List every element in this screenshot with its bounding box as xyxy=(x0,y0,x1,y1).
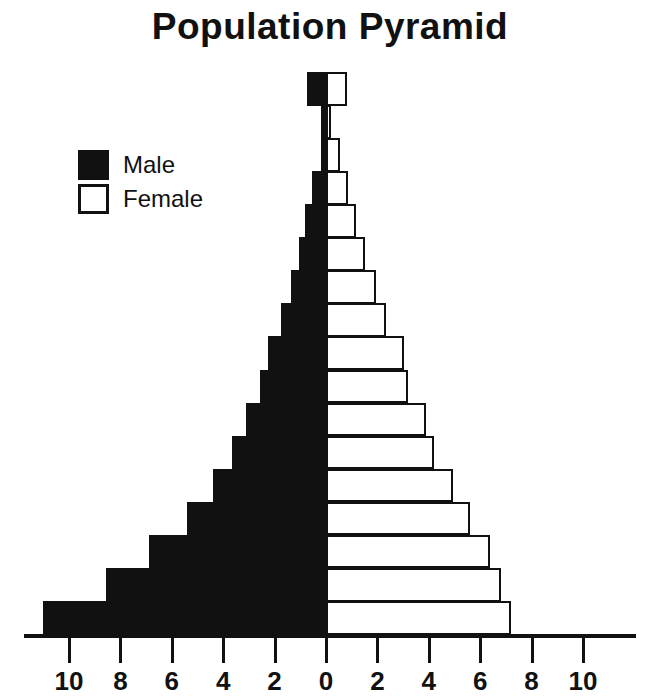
x-axis-tick xyxy=(222,638,225,663)
bar-female xyxy=(326,237,365,271)
pyramid-row xyxy=(0,270,660,303)
x-axis-tick xyxy=(531,638,534,663)
pyramid-row xyxy=(0,370,660,403)
x-axis-tick-label: 10 xyxy=(49,666,89,697)
bar-male xyxy=(43,601,326,635)
x-axis-tick xyxy=(68,638,71,663)
x-axis-tick-label: 8 xyxy=(512,666,552,697)
x-axis-tick-label: 6 xyxy=(152,666,192,697)
bar-male xyxy=(281,303,326,337)
bar-male xyxy=(291,270,326,304)
bar-female xyxy=(326,370,408,404)
pyramid-row xyxy=(0,568,660,601)
x-axis-tick xyxy=(119,638,122,663)
pyramid-row xyxy=(0,436,660,469)
x-axis-tick xyxy=(171,638,174,663)
x-axis-tick-label: 4 xyxy=(203,666,243,697)
pyramid-row xyxy=(0,601,660,634)
population-pyramid-chart: Population Pyramid Male Female 108642024… xyxy=(0,0,660,699)
bar-female xyxy=(326,270,376,304)
pyramid-row xyxy=(0,204,660,237)
bar-female xyxy=(326,469,453,503)
bar-female xyxy=(326,72,347,106)
bar-female xyxy=(326,204,356,238)
x-axis-tick xyxy=(428,638,431,663)
x-axis-tick xyxy=(376,638,379,663)
x-axis-tick-label: 0 xyxy=(306,666,346,697)
pyramid-row xyxy=(0,535,660,568)
x-axis-tick-label: 8 xyxy=(100,666,140,697)
pyramid-row xyxy=(0,336,660,369)
bar-male xyxy=(260,370,326,404)
x-axis-tick-label: 2 xyxy=(255,666,295,697)
bar-male xyxy=(149,535,326,569)
pyramid-row xyxy=(0,138,660,171)
bar-male xyxy=(187,502,326,536)
bar-male xyxy=(268,336,326,370)
bar-female xyxy=(326,171,348,205)
bar-female xyxy=(326,403,426,437)
bar-male xyxy=(312,171,326,205)
x-axis-tick xyxy=(274,638,277,663)
bar-male xyxy=(305,204,326,238)
bar-female xyxy=(326,502,470,536)
pyramid-row xyxy=(0,171,660,204)
bar-female xyxy=(326,336,404,370)
bar-male xyxy=(213,469,326,503)
pyramid-row xyxy=(0,469,660,502)
x-axis-tick xyxy=(582,638,585,663)
bar-female xyxy=(326,436,434,470)
x-axis-line xyxy=(24,634,636,638)
page-title: Population Pyramid xyxy=(0,6,660,48)
x-axis-tick-label: 10 xyxy=(563,666,603,697)
bar-female xyxy=(326,535,490,569)
bar-male xyxy=(106,568,326,602)
x-axis-tick-label: 2 xyxy=(357,666,397,697)
bar-female xyxy=(326,303,386,337)
bar-male xyxy=(299,237,326,271)
x-axis-tick-label: 4 xyxy=(409,666,449,697)
x-axis-tick xyxy=(325,638,328,663)
x-axis-tick-label: 6 xyxy=(460,666,500,697)
pyramid-row xyxy=(0,72,660,105)
pyramid-row xyxy=(0,403,660,436)
bar-male xyxy=(232,436,326,470)
bar-male xyxy=(246,403,326,437)
pyramid-row xyxy=(0,502,660,535)
bar-female xyxy=(326,601,511,635)
x-axis-tick xyxy=(479,638,482,663)
bar-female xyxy=(326,105,331,139)
bar-male xyxy=(307,72,326,106)
bar-female xyxy=(326,568,501,602)
pyramid-row xyxy=(0,105,660,138)
bar-female xyxy=(326,138,340,172)
plot-area xyxy=(0,60,660,635)
pyramid-row xyxy=(0,237,660,270)
pyramid-row xyxy=(0,303,660,336)
